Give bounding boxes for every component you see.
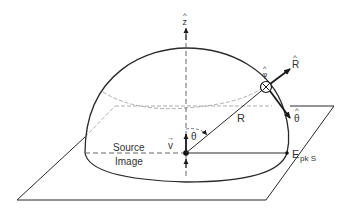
field-point	[285, 151, 289, 155]
source-label-line2: Image	[115, 156, 143, 167]
theta-unit-label: θ	[294, 113, 300, 124]
radius-label: R	[237, 112, 245, 124]
radius-line	[186, 87, 266, 153]
z-axis-label: z	[183, 17, 188, 27]
field-label-subscript: pk S	[300, 154, 316, 163]
hemisphere-back-rim	[103, 88, 262, 109]
r-unit-label: R	[292, 59, 299, 70]
hemisphere-diagram: ^ z ^ φ ^ R ^ θ R θ → v Source Image E p…	[0, 0, 349, 209]
field-label: E	[292, 148, 299, 160]
phi-unit-label: φ	[262, 70, 267, 79]
source-label-line1: Source	[113, 142, 145, 153]
angle-label: θ	[191, 131, 197, 142]
plane-left-edge	[17, 137, 85, 200]
velocity-label: v	[168, 140, 173, 151]
r-hat-arrow	[270, 69, 290, 84]
theta-hat-arrow	[270, 91, 290, 118]
